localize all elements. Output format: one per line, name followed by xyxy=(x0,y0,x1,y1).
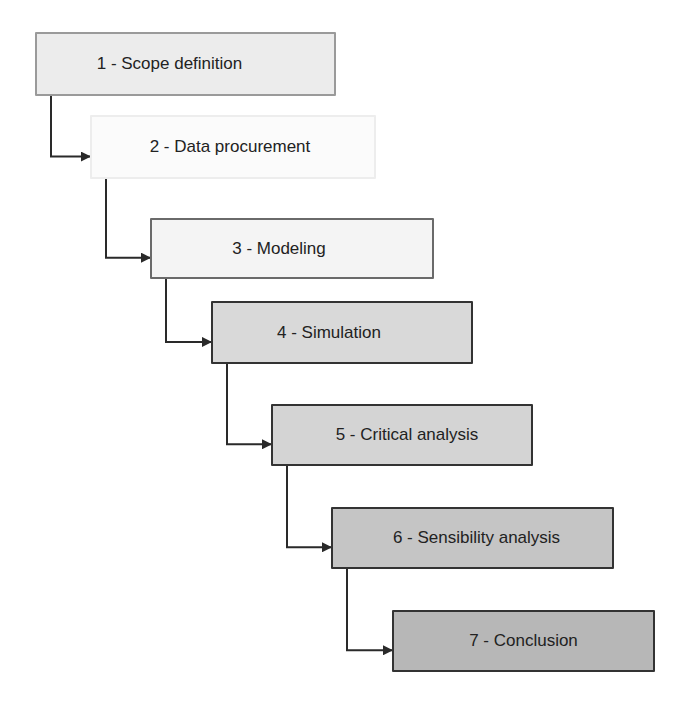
step-label: 6 - Sensibility analysis xyxy=(393,528,560,548)
step-box-conclusion: 7 - Conclusion xyxy=(392,610,655,672)
connector-arrow-3-to-4 xyxy=(166,279,211,342)
step-label: 4 - Simulation xyxy=(277,323,381,343)
step-box-modeling: 3 - Modeling xyxy=(150,218,434,279)
process-flow-diagram: 1 - Scope definition 2 - Data procuremen… xyxy=(0,0,687,704)
step-box-simulation: 4 - Simulation xyxy=(211,301,473,364)
step-box-sensibility-analysis: 6 - Sensibility analysis xyxy=(331,507,614,569)
connector-arrow-6-to-7 xyxy=(347,569,392,650)
step-box-critical-analysis: 5 - Critical analysis xyxy=(271,404,533,466)
connector-arrow-5-to-6 xyxy=(287,466,331,547)
step-label: 3 - Modeling xyxy=(232,239,326,259)
connector-arrow-1-to-2 xyxy=(51,96,90,157)
step-label: 1 - Scope definition xyxy=(97,54,243,74)
connector-arrow-2-to-3 xyxy=(106,179,150,258)
step-box-data-procurement: 2 - Data procurement xyxy=(90,115,376,179)
step-label: 5 - Critical analysis xyxy=(336,425,479,445)
connector-arrow-4-to-5 xyxy=(227,364,271,444)
step-label: 2 - Data procurement xyxy=(150,137,311,157)
step-label: 7 - Conclusion xyxy=(469,631,578,651)
step-box-scope-definition: 1 - Scope definition xyxy=(35,32,336,96)
